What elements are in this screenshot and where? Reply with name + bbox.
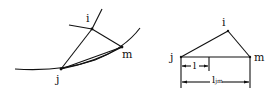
figure-canvas: i j m i j m l ljm: [0, 0, 274, 97]
tangent-line-i: [69, 25, 92, 29]
label-m-right: m: [254, 52, 264, 63]
label-j-right: j: [170, 52, 173, 63]
diagram-graphics: [0, 0, 274, 97]
label-j-left: j: [56, 74, 59, 85]
label-m-left: m: [122, 49, 132, 60]
edge-i-m-right: [228, 31, 250, 57]
normal-line-i: [92, 9, 102, 29]
edge-j-i-right: [181, 31, 228, 57]
label-i-right: i: [222, 17, 226, 28]
edge-i-m: [92, 29, 122, 47]
label-i-left: i: [86, 13, 90, 24]
dimension-l: l: [193, 61, 196, 71]
dimension-l-jm: ljm: [212, 75, 223, 85]
